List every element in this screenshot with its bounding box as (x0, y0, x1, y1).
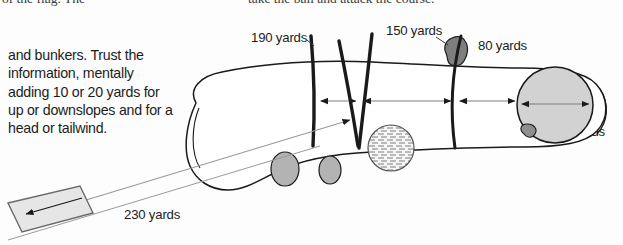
fairway-bunker-right (319, 156, 341, 184)
water-hazard (368, 125, 414, 171)
hole-diagram-artwork (0, 0, 623, 245)
tee-box (8, 186, 93, 232)
label-leader-lines (307, 37, 448, 46)
leader-150 (436, 37, 448, 45)
screenshot-page: of the flag. The take the ball and attac… (0, 0, 623, 245)
fairway-bunker-left (271, 152, 299, 186)
